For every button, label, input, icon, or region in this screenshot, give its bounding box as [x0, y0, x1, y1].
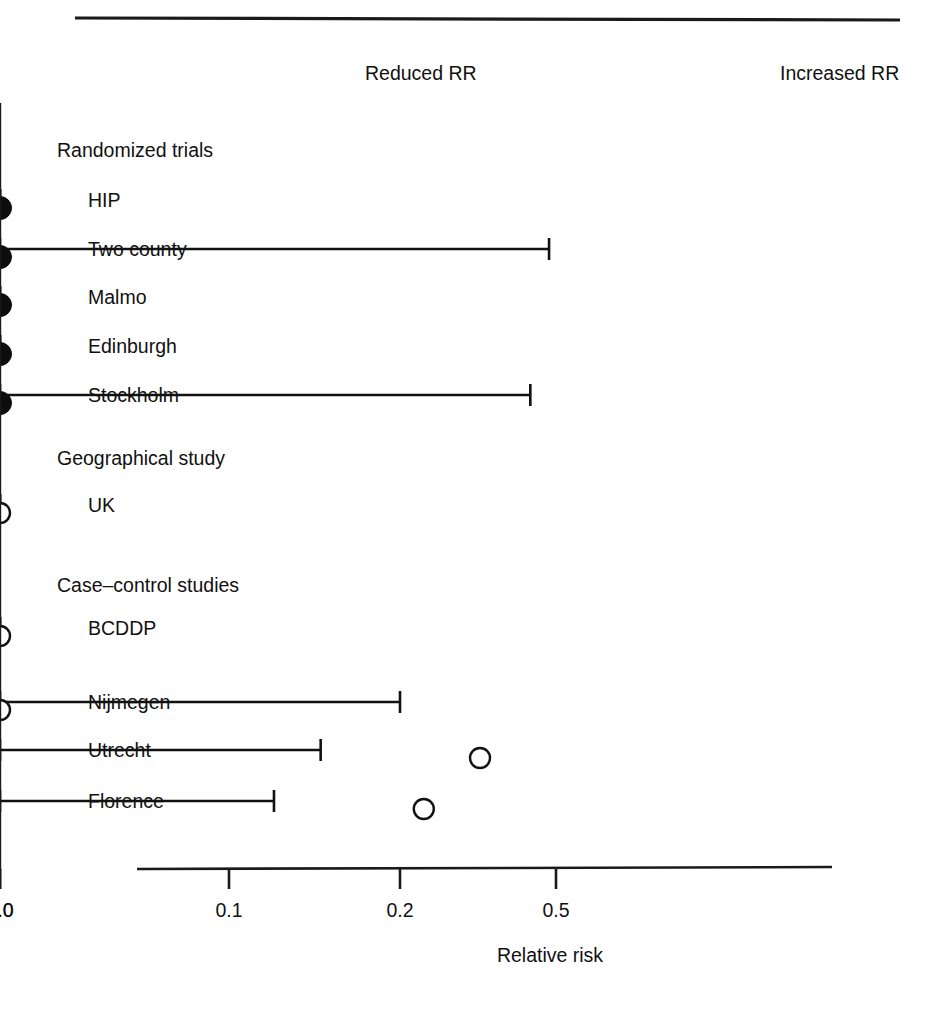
header-rule — [75, 18, 900, 20]
increased-rr-label: Increased RR — [780, 62, 899, 84]
x-axis-ticks: 0.10.20.51.02.0 — [0, 869, 570, 921]
row-study-hip: HIP — [0, 189, 121, 220]
point-marker-filled — [0, 294, 12, 317]
row-study-stockholm: Stockholm — [0, 384, 530, 415]
study-label: BCDDP — [88, 617, 156, 639]
group-label: Case–control studies — [57, 574, 239, 596]
x-axis-line — [137, 867, 832, 869]
point-marker-filled — [0, 197, 12, 220]
study-label: Edinburgh — [88, 335, 177, 357]
row-group-geographical-study: Geographical study — [57, 447, 225, 469]
point-marker-open — [470, 748, 490, 768]
point-marker-filled — [0, 343, 12, 366]
study-label: Malmo — [88, 286, 147, 308]
x-tick-label-0.5: 0.5 — [542, 899, 569, 921]
row-study-uk: UK — [0, 494, 115, 523]
row-group-randomized-trials: Randomized trials — [57, 139, 213, 161]
row-group-case-control-studies: Case–control studies — [57, 574, 239, 596]
point-marker-open — [0, 503, 10, 523]
row-study-malmo: Malmo — [0, 286, 147, 317]
reduced-rr-label: Reduced RR — [365, 62, 477, 84]
group-label: Randomized trials — [57, 139, 213, 161]
x-tick-label-0.1: 0.1 — [215, 899, 242, 921]
study-label: UK — [88, 494, 115, 516]
x-tick-label-0.2: 0.2 — [386, 899, 413, 921]
group-label: Geographical study — [57, 447, 225, 469]
study-label: HIP — [88, 189, 121, 211]
row-study-utrecht: Utrecht — [0, 739, 490, 768]
x-axis-title: Relative risk — [497, 944, 603, 966]
row-study-florence: Florence — [0, 790, 434, 819]
plot-rows: Randomized trialsHIPTwo countyMalmoEdinb… — [0, 139, 549, 819]
point-marker-open — [0, 626, 10, 646]
x-tick-label-2.0: 2.0 — [0, 899, 14, 921]
row-study-two-county: Two county — [0, 238, 549, 269]
row-study-bcddp: BCDDP — [0, 617, 156, 646]
point-marker-open — [0, 700, 10, 720]
row-study-nijmegen: Nijmegen — [0, 691, 400, 720]
forest-plot-figure: Reduced RR Increased RR Randomized trial… — [0, 0, 942, 1033]
point-marker-open — [414, 799, 434, 819]
forest-plot-canvas: Reduced RR Increased RR Randomized trial… — [0, 0, 942, 1033]
row-study-edinburgh: Edinburgh — [0, 335, 177, 366]
